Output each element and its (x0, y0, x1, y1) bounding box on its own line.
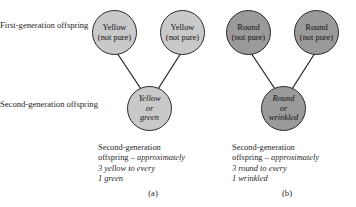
caption-b-line-2: offspring – approximately (232, 153, 319, 163)
panel-letter-b: (b) (262, 188, 312, 198)
caption-a-line-3: 3 yellow to every (98, 164, 185, 174)
circle-b-offspring-line2: or (280, 104, 287, 114)
circle-b-parent-2: Round (not pure) (294, 10, 339, 55)
panel-letter-a: (a) (128, 188, 178, 198)
caption-a-line-2-italic: approximately (137, 153, 185, 162)
circle-b-offspring-line3: wrinkled (269, 113, 298, 123)
circle-b-offspring-line1: Round (273, 94, 295, 104)
circle-a-offspring-line1: Yellow (138, 94, 160, 104)
caption-a: Second-generation offspring – approximat… (98, 143, 185, 184)
circle-a-parent-1: Yellow (not pure) (92, 10, 137, 55)
genetics-punnett-figure: First-generation offspring Second-genera… (0, 0, 356, 207)
circle-b-parent-1-line1: Round (237, 23, 259, 33)
circle-a-parent-2-line1: Yellow (171, 23, 195, 33)
circle-b-offspring: Round or wrinkled (261, 86, 306, 131)
circle-a-parent-1-line1: Yellow (103, 23, 127, 33)
circle-b-parent-1-line2: (not pure) (232, 33, 265, 43)
circle-a-offspring-line2: or (146, 104, 153, 114)
caption-a-line-1: Second-generation (98, 143, 185, 153)
caption-a-line-2: offspring – approximately (98, 153, 185, 163)
caption-b: Second-generation offspring – approximat… (232, 143, 319, 184)
caption-b-line-4: 1 wrinkled (232, 174, 319, 184)
row-label-first-generation: First-generation offspring (0, 20, 88, 30)
caption-a-line-4: 1 green (98, 174, 185, 184)
circle-a-parent-2-line2: (not pure) (166, 33, 199, 43)
circle-a-parent-2: Yellow (not pure) (160, 10, 205, 55)
caption-a-line-2-plain: offspring – (98, 153, 137, 162)
circle-b-parent-2-line1: Round (305, 23, 327, 33)
caption-b-line-2-plain: offspring – (232, 153, 271, 162)
caption-b-line-3: 3 round to every (232, 164, 319, 174)
caption-b-line-1: Second-generation (232, 143, 319, 153)
circle-b-parent-1: Round (not pure) (226, 10, 271, 55)
circle-a-offspring: Yellow or green (127, 86, 172, 131)
circle-a-offspring-line3: green (140, 113, 159, 123)
circle-b-parent-2-line2: (not pure) (300, 33, 333, 43)
row-label-second-generation: Second-generation offspring (0, 99, 88, 109)
caption-b-line-2-italic: approximately (271, 153, 319, 162)
circle-a-parent-1-line2: (not pure) (98, 33, 131, 43)
